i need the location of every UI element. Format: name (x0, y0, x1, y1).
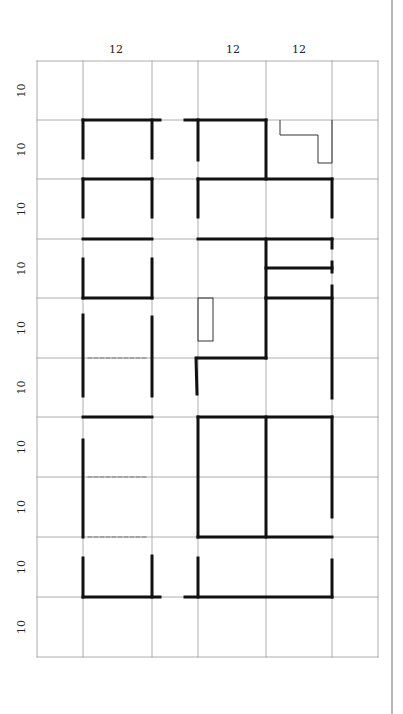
row-label: 10 (15, 202, 28, 216)
l-shaped-fixture (280, 120, 332, 163)
row-label: 10 (15, 620, 28, 634)
row-label: 10 (15, 321, 28, 335)
wall-segment (196, 358, 197, 394)
column-label: 12 (109, 43, 123, 56)
rectangular-fixture (198, 298, 213, 341)
row-label: 10 (15, 560, 28, 574)
row-label: 10 (15, 262, 28, 276)
row-label: 10 (15, 500, 28, 514)
row-label: 10 (15, 84, 28, 98)
column-label: 12 (292, 43, 306, 56)
row-label: 10 (15, 381, 28, 395)
column-label: 12 (226, 43, 240, 56)
floor-plan-diagram: 12121210101010101010101010 (0, 0, 403, 714)
row-label: 10 (15, 143, 28, 157)
row-label: 10 (15, 440, 28, 454)
